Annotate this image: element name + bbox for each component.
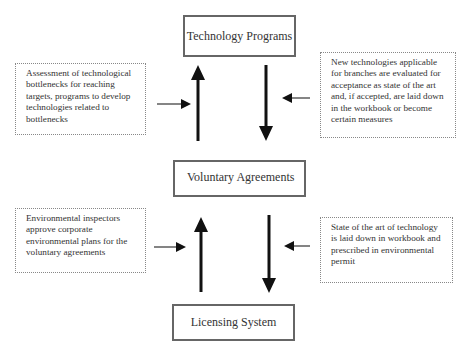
arrow-down-top [259,65,273,141]
arrow-up-bottom [194,217,208,292]
arrow-left-bottom-right [284,241,310,251]
arrow-right-top-left [157,99,191,109]
arrow-up-top [191,65,205,141]
arrow-left-top-right [282,93,310,103]
arrow-right-bottom-left [154,242,186,252]
arrow-down-bottom [262,215,276,293]
arrows-layer [0,0,470,354]
